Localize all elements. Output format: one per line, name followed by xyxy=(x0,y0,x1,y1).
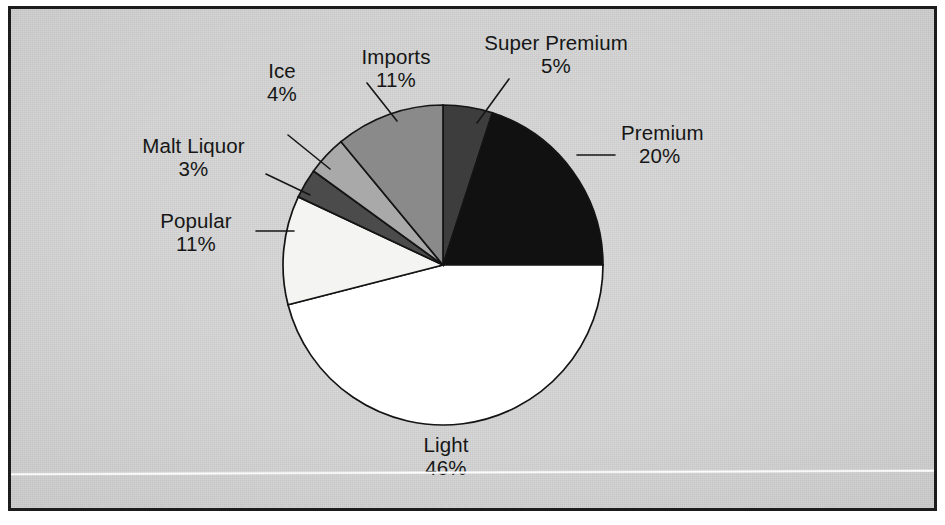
pie-label-light: Light 46% xyxy=(386,433,506,479)
pie-label-popular-name: Popular xyxy=(141,209,251,232)
pie-label-imports: Imports 11% xyxy=(336,45,456,91)
pie-label-premium: Premium 20% xyxy=(621,121,781,167)
pie-label-light-value: 46% xyxy=(386,456,506,479)
pie-label-premium-value: 20% xyxy=(621,144,781,167)
chart-frame: Super Premium 5% Premium 20% Imports 11%… xyxy=(8,6,937,511)
pie-label-malt-liquor-value: 3% xyxy=(121,157,266,180)
leader-line-malt-liquor xyxy=(266,174,310,195)
pie-label-premium-name: Premium xyxy=(621,121,781,144)
screenshot-root: Super Premium 5% Premium 20% Imports 11%… xyxy=(0,0,945,525)
leader-line-ice xyxy=(288,135,330,169)
pie-label-super-premium-value: 5% xyxy=(461,54,651,77)
pie-label-imports-value: 11% xyxy=(336,68,456,91)
pie-label-malt-liquor: Malt Liquor 3% xyxy=(121,134,266,180)
pie-label-super-premium-name: Super Premium xyxy=(461,31,651,54)
pie-label-malt-liquor-name: Malt Liquor xyxy=(121,134,266,157)
pie-label-light-name: Light xyxy=(386,433,506,456)
pie-label-popular-value: 11% xyxy=(141,232,251,255)
pie-label-super-premium: Super Premium 5% xyxy=(461,31,651,77)
pie-label-ice-name: Ice xyxy=(236,59,328,82)
pie-slices xyxy=(283,105,603,425)
pie-label-popular: Popular 11% xyxy=(141,209,251,255)
pie-label-ice-value: 4% xyxy=(236,82,328,105)
pie-label-imports-name: Imports xyxy=(336,45,456,68)
pie-label-ice: Ice 4% xyxy=(236,59,328,105)
